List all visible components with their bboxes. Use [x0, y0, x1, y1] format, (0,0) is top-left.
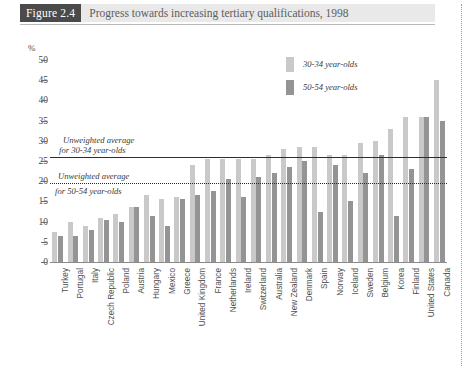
- x-axis-label-text: Hungary: [152, 268, 161, 299]
- x-axis-label-text: Australia: [275, 268, 284, 300]
- y-tick-mark: [41, 201, 47, 202]
- x-axis-label-text: Finland: [412, 268, 421, 295]
- x-axis-label: Netherlands: [229, 224, 238, 268]
- x-axis-label-text: New Zealand: [290, 268, 299, 316]
- x-axis-label-text: Austria: [137, 268, 146, 293]
- x-axis-label-text: Czech Republic: [107, 268, 116, 325]
- bar-30-34: [403, 117, 408, 262]
- y-tick-mark: [41, 181, 47, 182]
- header-divider: [20, 24, 435, 25]
- x-axis-label-text: United Kingdom: [198, 268, 207, 326]
- average-line-50-54: [50, 183, 447, 184]
- x-axis-label: United Kingdom: [198, 210, 207, 268]
- x-axis-label: Italy: [91, 253, 100, 268]
- x-axis-label: Norway: [336, 240, 345, 268]
- y-tick-mark: [41, 222, 47, 223]
- legend-item-series_30_34: 30-34 year-olds: [286, 55, 357, 73]
- y-tick-mark: [41, 161, 47, 162]
- x-axis-label: Switzerland: [259, 226, 268, 268]
- y-tick-mark: [41, 242, 47, 243]
- x-axis-label-text: Sweden: [366, 268, 375, 298]
- x-axis-label: New Zealand: [290, 220, 299, 268]
- x-axis-label-text: Norway: [336, 268, 345, 296]
- bar-30-34: [327, 155, 332, 262]
- x-axis-label-text: Belgium: [381, 268, 390, 298]
- y-axis-label: %: [28, 43, 36, 53]
- x-axis-label: Greece: [183, 241, 192, 268]
- figure-title: Progress towards increasing tertiary qua…: [81, 4, 348, 22]
- x-axis-label: Denmark: [305, 235, 314, 268]
- x-axis-label-text: Greece: [183, 268, 192, 295]
- x-axis-label: Poland: [122, 243, 131, 269]
- x-axis-label-text: France: [214, 268, 223, 293]
- x-axis-label-text: Ireland: [244, 268, 253, 293]
- figure-header: Figure 2.4 Progress towards increasing t…: [20, 4, 435, 22]
- legend-label-series_50_54: 50-54 year-olds: [303, 82, 357, 92]
- x-axis-label-text: Denmark: [305, 268, 314, 301]
- x-axis-label: Ireland: [244, 243, 253, 268]
- legend-swatch-series_50_54: [286, 80, 294, 95]
- x-axis-label: Sweden: [366, 238, 375, 268]
- y-tick-mark: [41, 100, 47, 101]
- average-line-30-34: [50, 157, 447, 158]
- x-axis-label-text: Iceland: [351, 268, 360, 294]
- y-tick-mark: [41, 141, 47, 142]
- x-axis-label: Australia: [275, 236, 284, 268]
- x-axis-label: Czech Republic: [107, 211, 116, 268]
- legend-item-series_50_54: 50-54 year-olds: [286, 78, 357, 96]
- x-axis-label-text: Portugal: [76, 268, 85, 299]
- x-axis-label: Hungary: [152, 237, 161, 268]
- average-caption-30-34-line1: Unweighted average: [63, 135, 134, 145]
- x-axis-label-text: Poland: [122, 268, 131, 294]
- x-axis-label: Finland: [412, 241, 421, 268]
- x-axis-label: Canada: [443, 239, 452, 268]
- x-axis-label-text: Switzerland: [259, 268, 268, 310]
- chart-legend: 30-34 year-olds50-54 year-olds: [286, 55, 357, 101]
- x-axis-label-text: Korea: [397, 268, 406, 290]
- y-tick-mark: [41, 121, 47, 122]
- x-axis-label: Spain: [320, 247, 329, 268]
- x-axis-label-text: Spain: [320, 268, 329, 289]
- x-axis-label: Portugal: [76, 238, 85, 269]
- x-axis-label: Iceland: [351, 242, 360, 268]
- x-axis-label: Mexico: [168, 242, 177, 268]
- average-caption-50-54-line1: Unweighted average: [58, 171, 129, 181]
- x-axis-label: United States: [427, 219, 436, 268]
- x-axis-label-text: Turkey: [61, 268, 70, 293]
- figure-container: Figure 2.4 Progress towards increasing t…: [0, 0, 465, 370]
- x-axis-label-text: Italy: [91, 268, 100, 283]
- legend-swatch-series_30_34: [286, 57, 294, 72]
- x-axis-label-text: Netherlands: [229, 268, 238, 312]
- x-axis-label: Austria: [137, 243, 146, 268]
- page-edge-rule: [461, 4, 462, 366]
- figure-number-badge: Figure 2.4: [20, 4, 81, 22]
- x-axis-label-text: Mexico: [168, 268, 177, 294]
- bar-30-34: [52, 232, 57, 262]
- x-axis-label: Belgium: [381, 238, 390, 268]
- y-tick-mark: [41, 80, 47, 81]
- x-axis-label: Korea: [397, 246, 406, 268]
- y-tick-mark: [41, 262, 47, 263]
- x-axis-label-text: United States: [427, 268, 436, 317]
- average-caption-30-34-line2: for 30-34 year-olds: [59, 145, 126, 155]
- x-axis-label: Turkey: [61, 243, 70, 268]
- average-caption-50-54-line2: for 50-54 year-olds: [55, 186, 122, 196]
- legend-label-series_30_34: 30-34 year-olds: [303, 59, 357, 69]
- y-tick-mark: [41, 60, 47, 61]
- x-axis-label-text: Canada: [443, 268, 452, 297]
- x-axis-label: France: [214, 243, 223, 268]
